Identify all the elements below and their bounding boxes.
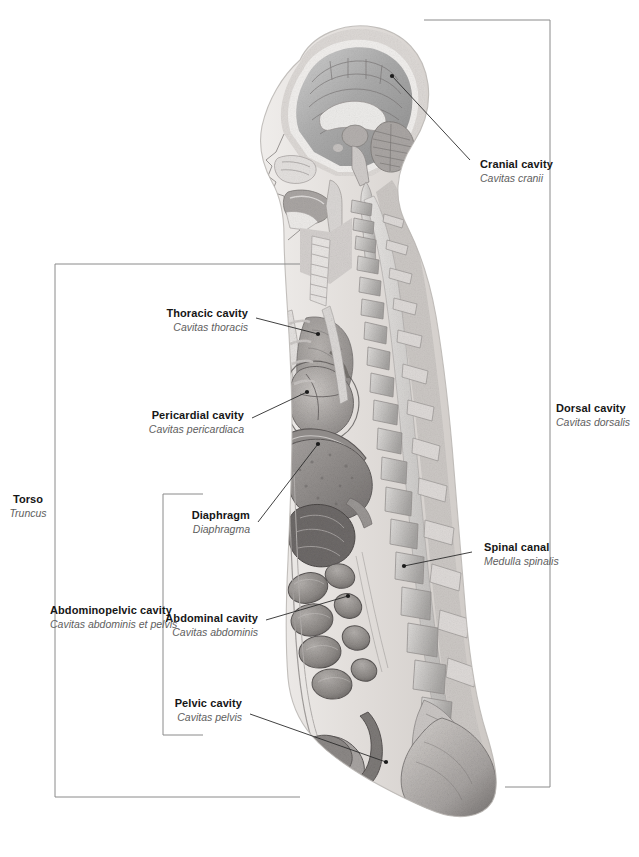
label-diaphragm-en: Diaphragm	[110, 509, 250, 522]
label-pelvic-cavity: Pelvic cavity Cavitas pelvis	[118, 697, 242, 723]
dot-thoracic-cavity	[316, 332, 320, 336]
dot-spinal-canal	[402, 564, 406, 568]
label-torso-la: Truncus	[6, 507, 50, 519]
label-cranial-cavity-la: Cavitas cranii	[480, 172, 553, 184]
figure-page: Cranial cavity Cavitas cranii Thoracic c…	[0, 0, 639, 857]
label-abdominopelvic-cavity: Abdominopelvic cavity Cavitas abdominis …	[50, 604, 158, 630]
label-dorsal-cavity-en: Dorsal cavity	[556, 402, 630, 415]
label-abdominopelvic-cavity-la: Cavitas abdominis et pelvis	[50, 618, 158, 630]
label-diaphragm: Diaphragm Diaphragma	[110, 509, 250, 535]
label-thoracic-cavity: Thoracic cavity Cavitas thoracis	[96, 307, 248, 333]
label-cranial-cavity: Cranial cavity Cavitas cranii	[480, 158, 553, 184]
label-pericardial-cavity: Pericardial cavity Cavitas pericardiaca	[78, 409, 244, 435]
label-torso: Torso Truncus	[6, 493, 50, 519]
label-abdominopelvic-cavity-en: Abdominopelvic cavity	[50, 604, 158, 617]
dot-cranial-cavity	[390, 74, 394, 78]
label-spinal-canal: Spinal canal Medulla spinalis	[484, 541, 559, 567]
label-dorsal-cavity-la: Cavitas dorsalis	[556, 416, 630, 428]
label-thoracic-cavity-en: Thoracic cavity	[96, 307, 248, 320]
label-pelvic-cavity-la: Cavitas pelvis	[118, 711, 242, 723]
label-spinal-canal-la: Medulla spinalis	[484, 555, 559, 567]
dot-pericardial-cavity	[305, 390, 309, 394]
label-pericardial-cavity-la: Cavitas pericardiaca	[78, 423, 244, 435]
sagittal-section-illustration	[240, 10, 520, 840]
dot-abdominal-cavity	[346, 594, 350, 598]
label-cranial-cavity-en: Cranial cavity	[480, 158, 553, 171]
label-torso-en: Torso	[6, 493, 50, 506]
label-dorsal-cavity: Dorsal cavity Cavitas dorsalis	[556, 402, 630, 428]
dot-diaphragm	[316, 442, 320, 446]
dot-pelvic-cavity	[384, 760, 388, 764]
label-spinal-canal-en: Spinal canal	[484, 541, 559, 554]
label-pericardial-cavity-en: Pericardial cavity	[78, 409, 244, 422]
label-thoracic-cavity-la: Cavitas thoracis	[96, 321, 248, 333]
label-diaphragm-la: Diaphragma	[110, 523, 250, 535]
label-pelvic-cavity-en: Pelvic cavity	[118, 697, 242, 710]
